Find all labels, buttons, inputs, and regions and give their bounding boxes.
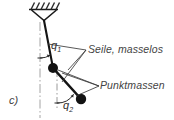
label-angle-q2: q2 <box>63 100 73 113</box>
label-angle-q1: q1 <box>51 40 61 53</box>
figure-part-label: c) <box>9 95 18 106</box>
label-angle-q2-subscript: 2 <box>69 106 73 113</box>
angle-arc-1 <box>38 55 51 58</box>
label-ropes-massless: Seile, masselos <box>88 44 163 55</box>
leader-punktmassen <box>58 70 99 96</box>
label-point-masses: Punktmassen <box>100 80 165 91</box>
figure-canvas <box>0 0 174 120</box>
ceiling-hatching-icon <box>29 3 60 10</box>
physics-figure-double-pendulum: Seile, masselos Punktmassen c) q1 q2 <box>0 0 174 120</box>
label-angle-q1-subscript: 1 <box>57 46 61 53</box>
pivot-bracket-icon <box>32 10 57 21</box>
mass-1 <box>48 63 58 73</box>
